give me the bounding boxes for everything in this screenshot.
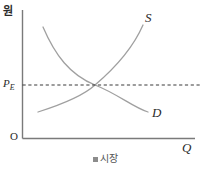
origin-label: O — [10, 131, 18, 142]
figure-caption: 시장 — [0, 154, 210, 164]
demand-curve — [43, 27, 148, 112]
y-axis-label: 원 — [3, 6, 13, 17]
x-axis-label: Q — [182, 141, 191, 154]
equilibrium-price-label-base: P — [3, 77, 10, 89]
supply-curve-label: S — [145, 11, 152, 24]
square-bullet-icon — [93, 157, 98, 162]
equilibrium-price-label-subscript: E — [10, 83, 15, 92]
supply-demand-figure: 원 Q S D PE O 시장 — [0, 0, 210, 179]
demand-curve-label: D — [152, 106, 161, 119]
supply-curve — [38, 25, 143, 112]
equilibrium-price-label: PE — [3, 78, 15, 92]
figure-caption-text: 시장 — [100, 154, 118, 164]
